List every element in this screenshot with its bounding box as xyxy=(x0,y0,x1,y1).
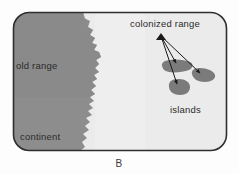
label-continent: continent xyxy=(20,131,61,142)
label-islands: islands xyxy=(170,104,201,115)
coastal-shelf-shading xyxy=(95,12,145,151)
label-colonized-range: colonized range xyxy=(130,18,200,29)
panel-letter: B xyxy=(115,158,122,169)
biogeography-diagram: old range continent colonized range isla… xyxy=(0,0,239,174)
figure-panel-b: old range continent colonized range isla… xyxy=(0,0,239,174)
label-old-range: old range xyxy=(16,60,57,71)
panel-contents: old range continent colonized range isla… xyxy=(13,12,227,151)
